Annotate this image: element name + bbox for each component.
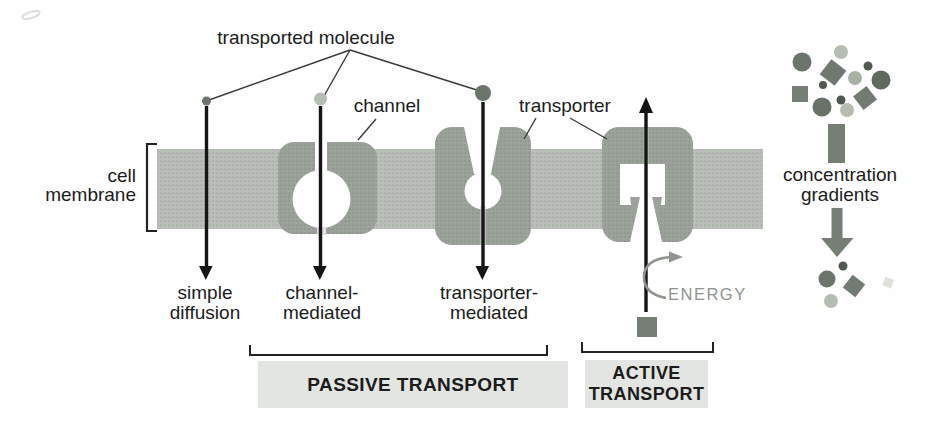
label-transporter: transporter: [519, 96, 611, 116]
scan-artifact: [883, 277, 895, 289]
label-channel-mediated-line2: mediated: [283, 303, 361, 323]
label-cell-membrane-line2: membrane: [38, 185, 136, 204]
active-transport-caption-line2: TRANSPORT: [585, 384, 708, 405]
transported-molecule-dot-light: [314, 93, 327, 106]
leader-lines-transported-molecule: [209, 50, 480, 100]
transported-molecule-dot-small: [202, 97, 211, 106]
gradient-bottom-cluster: [819, 262, 866, 309]
gradient-arrow-bar: [828, 124, 845, 163]
cell-membrane-bracket: [147, 144, 157, 231]
label-channel-mediated-line1: channel-: [283, 283, 361, 303]
molecule-circle: [824, 294, 838, 308]
molecule-circle: [872, 71, 891, 90]
transported-molecule-dot-large: [475, 85, 491, 101]
molecule-circle: [819, 81, 827, 89]
molecule-circle: [848, 71, 862, 85]
passive-transport-bracket: [250, 345, 547, 355]
active-transport-caption: ACTIVE TRANSPORT: [585, 360, 708, 408]
label-simple-diffusion-line1: simple: [170, 283, 240, 303]
molecule-square: [843, 275, 865, 297]
molecule-circle: [837, 96, 846, 105]
label-simple-diffusion: simple diffusion: [170, 283, 240, 323]
molecule-circle: [834, 45, 848, 59]
label-concentration-line2: gradients: [783, 185, 897, 205]
label-cell-membrane-line1: cell: [38, 166, 136, 185]
passive-transport-caption: PASSIVE TRANSPORT: [258, 361, 568, 408]
gradient-arrow-head: [821, 208, 854, 257]
label-transporter-mediated-line1: transporter-: [440, 283, 538, 303]
channel-protein: [278, 142, 377, 235]
active-transport-caption-line1: ACTIVE: [585, 363, 708, 384]
gradient-top-cluster: [792, 45, 891, 117]
label-channel-mediated: channel- mediated: [283, 283, 361, 323]
molecule-circle: [840, 103, 854, 117]
leader-line-channel: [358, 119, 376, 140]
label-simple-diffusion-line2: diffusion: [170, 303, 240, 323]
active-transport-bracket: [582, 342, 713, 352]
molecule-circle: [793, 53, 812, 72]
molecule-circle: [819, 271, 836, 288]
leader-lines-transporter: [524, 118, 607, 139]
label-channel: channel: [354, 96, 421, 116]
label-cell-membrane: cell membrane: [38, 166, 136, 204]
label-concentration-gradients: concentration gradients: [783, 165, 897, 205]
active-molecule-square: [637, 317, 657, 337]
membrane-transport-diagram: transported molecule channel transporter…: [0, 0, 929, 437]
label-concentration-line1: concentration: [783, 165, 897, 185]
label-energy: ENERGY: [668, 284, 747, 304]
molecule-circle: [839, 262, 848, 271]
label-transporter-mediated-line2: mediated: [440, 303, 538, 323]
molecule-square: [792, 86, 808, 102]
label-transported-molecule: transported molecule: [217, 28, 394, 48]
label-transporter-mediated: transporter- mediated: [440, 283, 538, 323]
molecule-square: [853, 86, 877, 110]
molecule-circle: [864, 62, 873, 71]
molecule-circle: [813, 98, 832, 117]
scan-artifact: [22, 9, 41, 20]
